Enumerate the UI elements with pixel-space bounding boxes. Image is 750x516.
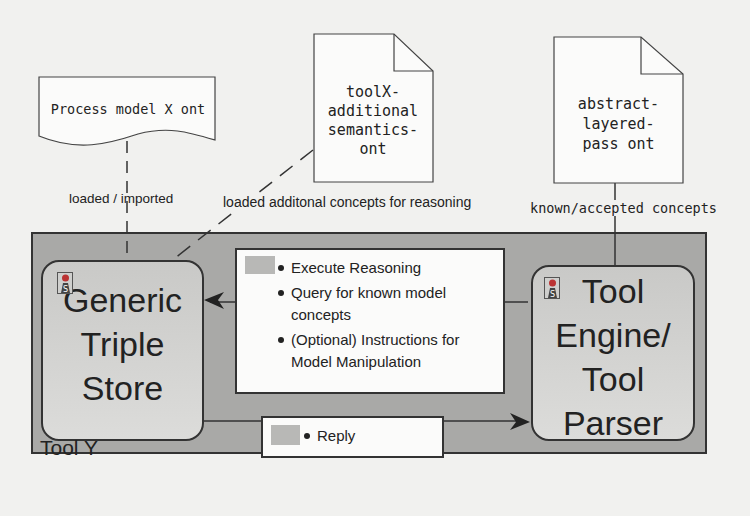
toolx-line-4: ont [313,140,433,159]
loaded-additional-label: loaded additonal concepts for reasoning [221,194,473,210]
toolx-line-3: semantics- [313,121,433,140]
reply-message-list: Reply [301,425,355,450]
tool-engine-parser-node[interactable]: S Tool Engine/ Tool Parser [531,265,695,441]
known-accepted-label: known/accepted concepts [528,200,719,216]
tool-y-label: Tool Y [40,436,98,460]
message-item-reply: Reply [301,425,355,447]
generic-triple-store-node[interactable]: S Generic Triple Store [41,260,204,441]
toolx-line-2: additional [313,102,433,121]
request-message-box: Execute Reasoning Query for known model … [235,248,505,394]
tool-engine-line-3: Tool [533,357,693,401]
stereotype-s-icon: S [57,272,73,294]
svg-text:S: S [63,285,68,294]
abstract-layered-document: abstract- layered- pass ont [553,36,684,184]
tool-engine-line-2: Engine/ [533,313,693,357]
triple-store-line-2: Triple [43,322,202,366]
request-message-list: Execute Reasoning Query for known model … [275,257,500,376]
message-envelope-icon [245,256,275,274]
message-envelope-icon [271,425,300,445]
svg-text:S: S [550,290,555,299]
message-item-execute-reasoning: Execute Reasoning [275,257,500,279]
triple-store-line-3: Store [43,366,202,410]
message-item-query-concepts: Query for known model concepts [275,282,500,326]
message-item-optional-instructions: (Optional) Instructions for Model Manipu… [275,329,500,373]
stereotype-s-icon: S [544,277,560,299]
process-model-document: Process model X ont [38,76,218,148]
abstract-line-3: pass ont [553,134,684,154]
abstract-line-1: abstract- [553,94,684,114]
abstract-line-2: layered- [553,114,684,134]
loaded-imported-label: loaded / imported [69,191,173,206]
tool-engine-line-4: Parser [533,401,693,445]
reply-message-box: Reply [261,416,444,458]
toolx-line-1: toolX- [313,83,433,102]
toolx-semantics-document: toolX- additional semantics- ont [313,33,433,183]
process-model-label: Process model X ont [38,100,218,118]
